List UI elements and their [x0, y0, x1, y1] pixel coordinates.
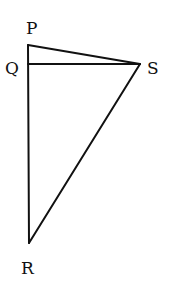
vertex-label-p: P — [26, 18, 37, 38]
vertex-label-s: S — [147, 58, 159, 78]
triangle-diagram: P Q S R — [0, 0, 169, 288]
vertex-label-r: R — [21, 258, 35, 278]
vertex-label-q: Q — [5, 58, 19, 78]
segment-sr — [29, 64, 140, 243]
segment-ps — [28, 45, 140, 64]
segment-pr — [28, 45, 29, 243]
